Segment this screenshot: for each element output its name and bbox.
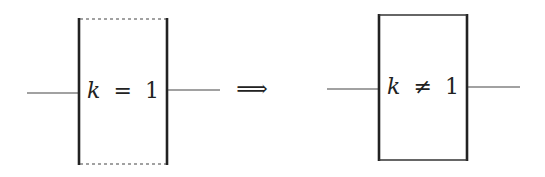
right-block-relation: ≠ xyxy=(413,74,431,99)
right-block-label: k ≠ 1 xyxy=(387,74,459,99)
right-block: k ≠ 1 xyxy=(327,14,520,161)
left-block-label: k = 1 xyxy=(87,78,159,103)
right-block-value: 1 xyxy=(445,74,459,99)
implies-arrow-icon: ⟹ xyxy=(236,76,268,101)
diagram-canvas: k = 1 ⟹ k ≠ 1 xyxy=(0,0,545,177)
left-block-value: 1 xyxy=(145,78,159,103)
left-block-variable: k xyxy=(87,78,100,103)
left-block-relation: = xyxy=(113,78,131,103)
right-block-variable: k xyxy=(387,74,400,99)
left-block: k = 1 xyxy=(27,18,220,165)
